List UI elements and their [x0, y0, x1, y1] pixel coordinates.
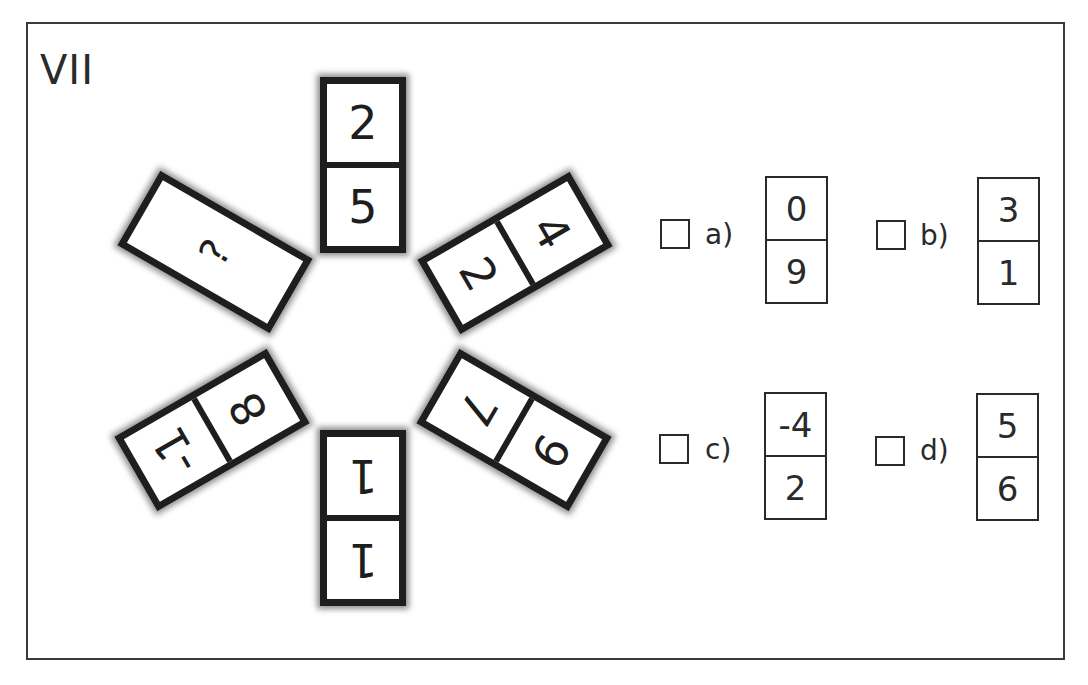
option-b-bottom-value: 1	[979, 242, 1038, 303]
option-c-bottom-value: 2	[766, 457, 825, 518]
option-d-top-value: 5	[978, 395, 1037, 458]
option-b-top-value: 3	[979, 179, 1038, 242]
option-b-label: b)	[920, 221, 949, 251]
domino-half-outer: 1	[327, 515, 399, 599]
option-a-top-value: 0	[767, 178, 826, 241]
domino-half-inner: 5	[327, 168, 399, 246]
domino-half-outer: 2	[327, 84, 399, 168]
option-a-label: a)	[705, 220, 733, 250]
option-d-label: d)	[920, 436, 949, 466]
option-d-bottom-value: 6	[978, 458, 1037, 519]
option-d-checkbox[interactable]	[875, 436, 905, 466]
question-mark-text: ?	[190, 231, 240, 272]
puzzle-frame	[26, 22, 1065, 660]
option-c-checkbox[interactable]	[659, 434, 689, 464]
option-a-bottom-value: 9	[767, 241, 826, 302]
option-c-domino: -4 2	[764, 392, 827, 520]
option-d-domino: 5 6	[976, 393, 1039, 521]
option-a-domino: 0 9	[765, 176, 828, 304]
domino-top: 2 5	[320, 77, 406, 253]
option-a-checkbox[interactable]	[660, 219, 690, 249]
domino-half-inner: 1	[327, 437, 399, 515]
option-c-top-value: -4	[766, 394, 825, 457]
option-b-domino: 3 1	[977, 177, 1040, 305]
option-c-label: c)	[705, 435, 731, 465]
puzzle-title: VII	[40, 50, 94, 90]
domino-bottom: 1 1	[320, 430, 406, 606]
option-b-checkbox[interactable]	[876, 220, 906, 250]
